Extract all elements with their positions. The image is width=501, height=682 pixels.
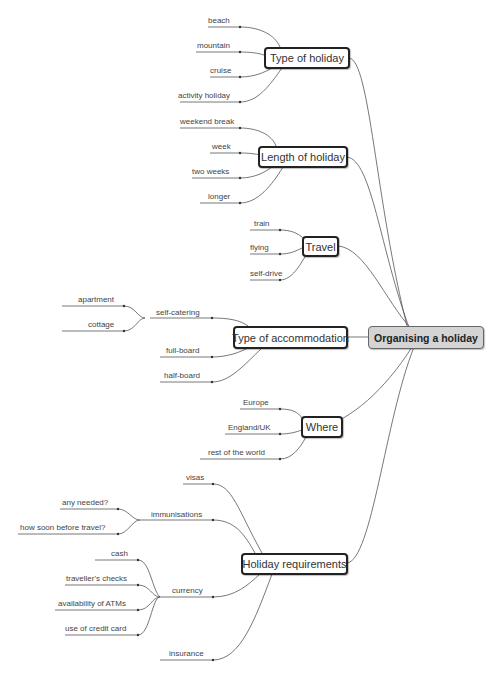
branch-travel[interactable]: Travel [302, 236, 339, 257]
leaf-immunisations[interactable]: immunisations [151, 510, 202, 520]
leaf-train[interactable]: train [254, 219, 270, 229]
leaf-how-soon-before-travel[interactable]: how soon before travel? [20, 523, 105, 533]
leaf-europe[interactable]: Europe [243, 398, 269, 408]
leaf-mountain[interactable]: mountain [197, 41, 230, 51]
branch-type-of-holiday[interactable]: Type of holiday [264, 47, 350, 69]
leaf-beach[interactable]: beach [208, 16, 230, 26]
branch-type-of-accommodation[interactable]: Type of accommodation [233, 326, 348, 349]
leaf-rest-of-the-world[interactable]: rest of the world [208, 448, 265, 458]
leaf-week[interactable]: week [212, 142, 231, 152]
leaf-travellers-checks[interactable]: traveller's checks [66, 574, 127, 584]
leaf-self-drive[interactable]: self-drive [250, 269, 282, 279]
leaf-use-of-credit-card[interactable]: use of credit card [65, 624, 126, 634]
leaf-activity-holiday[interactable]: activity holiday [178, 91, 230, 101]
leaf-visas[interactable]: visas [186, 473, 204, 483]
leaf-apartment[interactable]: apartment [78, 295, 114, 305]
leaf-currency[interactable]: currency [172, 586, 203, 596]
leaf-cash[interactable]: cash [111, 549, 128, 559]
leaf-half-board[interactable]: half-board [164, 371, 200, 381]
branch-holiday-requirements[interactable]: Holiday requirements [241, 553, 348, 575]
branch-where[interactable]: Where [301, 416, 343, 438]
leaf-longer[interactable]: longer [208, 192, 230, 202]
root-node[interactable]: Organising a holiday [368, 326, 484, 349]
leaf-full-board[interactable]: full-board [166, 346, 199, 356]
mind-map-canvas: Organising a holiday Type of holiday Len… [0, 0, 501, 682]
leaf-cruise[interactable]: cruise [210, 66, 231, 76]
leaf-england-uk[interactable]: England/UK [228, 423, 271, 433]
leaf-availability-of-atms[interactable]: availability of ATMs [58, 599, 126, 609]
leaf-weekend-break[interactable]: weekend break [180, 117, 234, 127]
leaf-insurance[interactable]: insurance [169, 649, 204, 659]
leaf-self-catering[interactable]: self-catering [156, 308, 200, 318]
branch-length-of-holiday[interactable]: Length of holiday [258, 146, 348, 168]
leaf-flying[interactable]: flying [250, 243, 269, 253]
leaf-cottage[interactable]: cottage [88, 320, 114, 330]
leaf-any-needed[interactable]: any needed? [62, 498, 108, 508]
leaf-two-weeks[interactable]: two weeks [192, 167, 229, 177]
